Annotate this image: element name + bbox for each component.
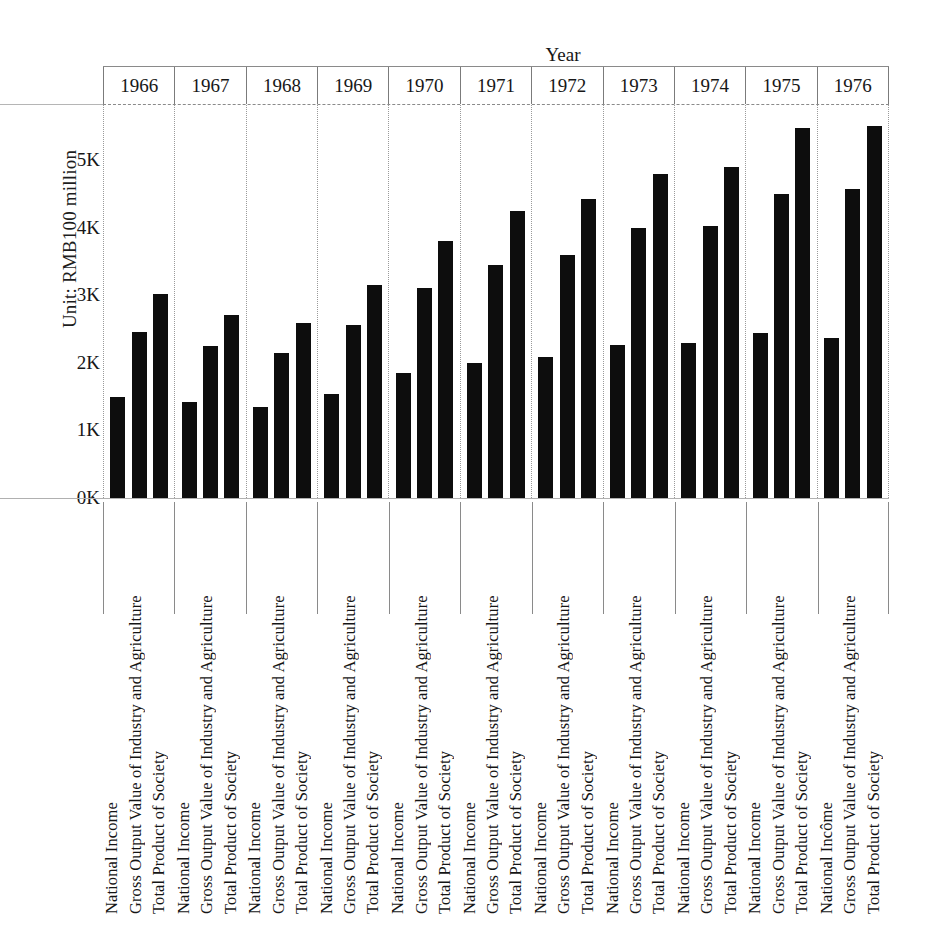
y-tick-label: 5K (0, 149, 100, 171)
category-label: Gross Output Value of Industry and Agric… (414, 500, 436, 920)
category-label-group: National IncomeGross Output Value of Ind… (389, 500, 460, 920)
bar (610, 345, 625, 498)
category-label: Gross Output Value of Industry and Agric… (271, 500, 293, 920)
bar (467, 363, 482, 498)
bar (538, 357, 553, 498)
bar (681, 343, 696, 498)
category-label: Total Product of Society (365, 500, 387, 920)
category-label-group: National IncomeGross Output Value of Ind… (103, 500, 174, 920)
bar (153, 294, 168, 498)
category-label: National Income (747, 500, 769, 920)
category-label: Total Product of Society (580, 500, 602, 920)
category-label: Total Product of Society (151, 500, 173, 920)
bar (396, 373, 411, 498)
bar (724, 167, 739, 498)
category-label: Gross Output Value of Industry and Agric… (128, 500, 150, 920)
year-header-cell: 1972 (531, 67, 602, 104)
bar (581, 199, 596, 498)
bar (367, 285, 382, 498)
category-label: Gross Output Value of Industry and Agric… (199, 500, 221, 920)
bar (203, 346, 218, 498)
bar (438, 241, 453, 498)
bar (824, 338, 839, 498)
category-label: Gross Output Value of Industry and Agric… (342, 500, 364, 920)
category-label: Total Product of Society (794, 500, 816, 920)
year-header-cell: 1966 (103, 67, 174, 104)
category-label: National Income (319, 500, 341, 920)
x-axis-title: Year (103, 44, 889, 66)
bar-group (817, 105, 889, 498)
year-header-cell: 1969 (317, 67, 388, 104)
bar (324, 394, 339, 498)
bar-group (388, 105, 459, 498)
year-header-cell: 1974 (674, 67, 745, 104)
bar (560, 255, 575, 498)
category-label-group: National IncomeGross Output Value of Ind… (746, 500, 817, 920)
bar (703, 226, 718, 498)
bar-group (246, 105, 317, 498)
category-label: National Income (104, 500, 126, 920)
bar (346, 325, 361, 498)
category-label: National Income (533, 500, 555, 920)
category-label: National Income (676, 500, 698, 920)
category-label: Total Product of Society (723, 500, 745, 920)
year-header-cell: 1967 (174, 67, 245, 104)
category-label-group: National IncomeGross Output Value of Ind… (460, 500, 531, 920)
bar (132, 332, 147, 498)
bar-group (103, 105, 174, 498)
bar-group (531, 105, 602, 498)
category-label-group: National IncômeGross Output Value of Ind… (818, 500, 889, 920)
category-label: Gross Output Value of Industry and Agric… (556, 500, 578, 920)
category-label-group: National IncomeGross Output Value of Ind… (174, 500, 245, 920)
bar (510, 211, 525, 498)
category-label-group: National IncomeGross Output Value of Ind… (246, 500, 317, 920)
x-axis-baseline (0, 498, 889, 499)
category-label: Total Product of Society (651, 500, 673, 920)
category-label: Total Product of Society (866, 500, 888, 920)
year-header-cell: 1971 (460, 67, 531, 104)
bar-groups (103, 105, 889, 498)
category-label-group: National IncomeGross Output Value of Ind… (603, 500, 674, 920)
bar (488, 265, 503, 498)
y-tick-label: 2K (0, 352, 100, 374)
category-label: National Income (390, 500, 412, 920)
bar (653, 174, 668, 498)
category-label-band: National IncomeGross Output Value of Ind… (103, 500, 889, 920)
year-header-cell: 1973 (603, 67, 674, 104)
bar (253, 407, 268, 498)
bar (182, 402, 197, 498)
category-label: National Income (176, 500, 198, 920)
year-header-cell: 1968 (246, 67, 317, 104)
y-tick-label: 4K (0, 217, 100, 239)
bar-group (174, 105, 245, 498)
category-label: Gross Output Value of Industry and Agric… (842, 500, 864, 920)
bar (631, 228, 646, 498)
header-rule-left (0, 104, 103, 105)
y-tick-label: 3K (0, 284, 100, 306)
bar-chart: Unit: RMB100 million 5K4K3K2K1K0K Year 1… (0, 0, 934, 943)
category-label: Total Product of Society (223, 500, 245, 920)
x-axis-title-text: Year (545, 44, 580, 65)
bar (274, 353, 289, 498)
year-header-band: 1966196719681969197019711972197319741975… (103, 66, 889, 105)
y-axis-tick-labels: 5K4K3K2K1K0K (0, 0, 100, 943)
year-header-cell: 1970 (388, 67, 459, 104)
bar (224, 315, 239, 498)
category-label: Gross Output Value of Industry and Agric… (771, 500, 793, 920)
category-label: Total Product of Society (294, 500, 316, 920)
bar (795, 128, 810, 498)
category-label: Gross Output Value of Industry and Agric… (628, 500, 650, 920)
group-separator (888, 502, 889, 614)
category-label-group: National IncomeGross Output Value of Ind… (532, 500, 603, 920)
bar (110, 397, 125, 498)
bar (845, 189, 860, 498)
bar-group (745, 105, 816, 498)
bar-group (317, 105, 388, 498)
year-header-cell: 1975 (745, 67, 816, 104)
category-label: Total Product of Society (508, 500, 530, 920)
category-label: National Income (462, 500, 484, 920)
bar (417, 288, 432, 498)
category-label-group: National IncomeGross Output Value of Ind… (317, 500, 388, 920)
category-label: National Incôme (819, 500, 841, 920)
y-tick-label: 1K (0, 419, 100, 441)
